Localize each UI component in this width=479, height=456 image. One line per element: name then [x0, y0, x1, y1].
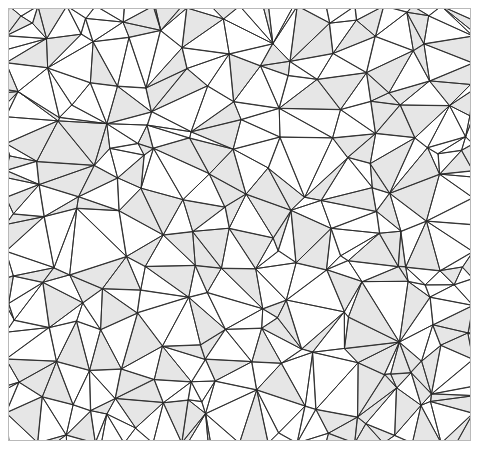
figure-root [0, 0, 479, 456]
triangulation-canvas [9, 9, 470, 440]
triangle-faces [9, 9, 470, 440]
mesh-frame-border [8, 8, 471, 441]
